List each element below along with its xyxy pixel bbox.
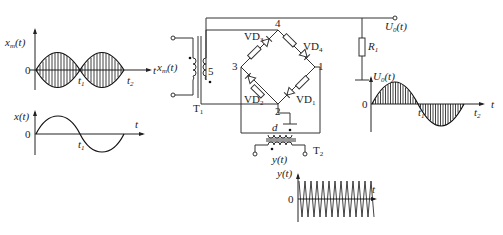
t2-coil-bottom	[268, 142, 292, 145]
u0-tick-t1: t1	[418, 106, 425, 120]
x-xlabel: t	[135, 118, 139, 130]
transformer-t2: d y(t) T2	[253, 104, 324, 166]
plot-x: x(t) 0 t t1	[13, 110, 145, 155]
plot-y: y(t) 0 t	[276, 167, 377, 222]
diode-vd2	[245, 73, 256, 84]
u0-tick-t2: t2	[474, 106, 481, 120]
xm-ylabel: xm(t)	[4, 36, 26, 50]
resistor-r1	[359, 38, 365, 56]
t2-coil-top	[268, 135, 292, 138]
arm-resistor-3-4	[248, 46, 261, 59]
arm-resistor-4-1	[283, 34, 296, 47]
u0-ylabel: U0(t)	[373, 70, 395, 84]
u0-xlabel: t	[491, 98, 495, 110]
t2-input-label: y(t)	[271, 153, 288, 166]
t1-input-label: xm(t)	[156, 61, 178, 75]
y-xlabel: t	[372, 183, 376, 195]
t2-label: T2	[313, 144, 324, 158]
xm-tick-t2: t2	[127, 74, 134, 88]
ref-terminal-left[interactable]	[253, 152, 257, 156]
plot-xm: xm(t) 0 t t1 t2	[4, 28, 157, 90]
arm-resistor-1-2	[296, 76, 309, 89]
node-4-label: 4	[275, 17, 281, 29]
t1-tap-label: 5	[208, 65, 214, 77]
plot-u0: U0(t) 0 t t1 t2	[362, 70, 495, 132]
diode-bridge: 4 1 2 3 VD3 VD4 VD2 VD1	[232, 17, 324, 117]
node-3-label: 3	[232, 60, 238, 72]
diagram-canvas: xm(t) 0 t t1 t2 x(t) 0 t t1 xm(t) 5 T1	[0, 0, 503, 235]
wire-to-node2	[201, 98, 278, 104]
ref-terminal-right[interactable]	[303, 152, 307, 156]
x-origin: 0	[25, 128, 31, 140]
y-ylabel: y(t)	[276, 167, 293, 180]
vd1-label: VD1	[296, 93, 316, 107]
x-ylabel: x(t)	[13, 110, 30, 123]
input-terminal-bottom[interactable]	[171, 93, 175, 97]
r1-label: R1	[367, 40, 378, 54]
u0-origin: 0	[362, 98, 368, 110]
input-terminal-top[interactable]	[171, 36, 175, 40]
vd4-label: VD4	[303, 40, 323, 54]
y-origin: 0	[288, 193, 294, 205]
output-section: R1 U0(t)	[355, 16, 407, 80]
t1-primary-coil	[193, 58, 196, 80]
output-label: U0(t)	[385, 20, 407, 34]
xm-origin: 0	[25, 64, 31, 76]
node-1-label: 1	[318, 60, 324, 72]
vd3-label: VD3	[244, 30, 264, 44]
t2-tap-label: d	[272, 121, 278, 133]
